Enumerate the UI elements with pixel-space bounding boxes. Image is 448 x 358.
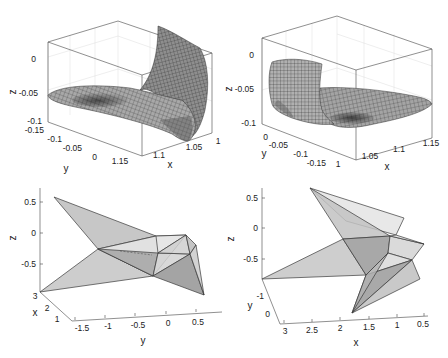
z-axis: 0 -0.05 -0.1 z	[224, 50, 256, 128]
z-tick: 0	[31, 54, 36, 64]
y-tick: -1	[104, 321, 112, 331]
panel-bottom-left: 0.5 0 -0.5 z 1 2 3 x -1.5 -1 -0.5 0 0.5 …	[0, 178, 224, 358]
surface-plot-top-right: 0 -0.05 -0.1 z 0 -0.05 -0.1 -0.15 y 1 1.…	[224, 0, 448, 180]
y-tick: -0.1	[47, 134, 62, 144]
x-tick: 3	[33, 291, 38, 301]
x-tick: 1.05	[186, 142, 203, 152]
z-axis-label: z	[7, 90, 18, 95]
x-tick: 3	[283, 326, 288, 336]
x-tick: 1.15	[112, 156, 129, 166]
x-tick: 2.5	[306, 325, 318, 335]
x-tick: 1.5	[363, 322, 375, 332]
y-tick: 0	[92, 152, 97, 162]
z-tick: 0	[249, 50, 254, 60]
z-tick: 0	[253, 223, 258, 233]
y-axis: 0 -0.05 -0.1 -0.15 y	[262, 132, 327, 168]
x-tick: 1.1	[153, 150, 165, 160]
y-tick: -0.5	[131, 320, 146, 330]
y-tick: 0	[263, 132, 268, 142]
x-axis: 1 2 3 x	[33, 291, 60, 324]
x-axis-label: x	[168, 159, 173, 170]
surface-mesh	[269, 59, 432, 127]
polyhedron-plot-bottom-right: 0.5 0 -0.5 z -1 0 y 3 2.5 2 1.5 1 0.5 x	[224, 178, 448, 358]
x-tick: 0.5	[417, 319, 429, 329]
z-tick: -0.5	[21, 259, 36, 269]
x-axis-label: x	[354, 337, 359, 348]
z-tick: -0.5	[243, 254, 258, 264]
z-axis-label: z	[7, 236, 18, 241]
z-tick: 0	[31, 228, 36, 238]
z-tick: -0.05	[235, 84, 255, 94]
y-axis: -1 0 y	[248, 291, 271, 319]
z-tick: 0.5	[24, 197, 36, 207]
x-tick: 1	[216, 136, 221, 146]
x-tick: 2	[338, 323, 343, 333]
z-tick: -0.05	[19, 88, 39, 98]
surface-mesh	[48, 26, 208, 142]
y-tick: -1.5	[75, 323, 90, 333]
y-axis-label: y	[248, 300, 253, 311]
x-tick: 1.05	[362, 151, 379, 161]
x-tick: 1.15	[423, 138, 440, 148]
y-tick: -0.05	[269, 140, 289, 150]
y-axis: -1.5 -1 -0.5 0 0.5 y	[75, 317, 205, 346]
x-tick: 2	[45, 303, 50, 313]
panel-top-left: 0 -0.05 -0.1 z -0.15 -0.1 -0.05 0 y 1.15…	[0, 0, 224, 180]
z-axis-label: z	[225, 237, 236, 242]
y-axis: -0.15 -0.1 -0.05 0 y	[25, 125, 98, 174]
y-tick: 0	[265, 309, 270, 319]
z-axis-label: z	[224, 87, 234, 92]
y-axis-label: y	[64, 163, 69, 174]
z-axis: 0.5 0 -0.5 z	[7, 197, 36, 269]
x-tick: 1	[55, 314, 60, 324]
polyhedron-plot-bottom-left: 0.5 0 -0.5 z 1 2 3 x -1.5 -1 -0.5 0 0.5 …	[0, 178, 224, 358]
y-tick: 0	[166, 318, 171, 328]
x-tick: 1	[336, 159, 341, 169]
y-tick: -1	[256, 291, 264, 301]
z-tick: 0.5	[246, 193, 258, 203]
x-axis-label: x	[33, 307, 38, 318]
y-tick: -0.15	[307, 158, 327, 168]
z-axis: 0.5 0 -0.5 z	[225, 193, 258, 264]
x-tick: 1	[395, 320, 400, 330]
surface-plot-top-left: 0 -0.05 -0.1 z -0.15 -0.1 -0.05 0 y 1.15…	[0, 0, 224, 180]
y-axis-label: y	[141, 335, 146, 346]
z-tick: -0.1	[241, 118, 256, 128]
panel-top-right: 0 -0.05 -0.1 z 0 -0.05 -0.1 -0.15 y 1 1.…	[224, 0, 448, 180]
polyhedron-faces	[40, 197, 204, 295]
x-axis-label: x	[385, 161, 390, 172]
x-tick: 1.1	[393, 144, 405, 154]
y-axis-label: y	[262, 148, 267, 159]
x-axis: 3 2.5 2 1.5 1 0.5 x	[283, 319, 430, 348]
y-tick: 0.5	[192, 317, 204, 327]
panel-bottom-right: 0.5 0 -0.5 z -1 0 y 3 2.5 2 1.5 1 0.5 x	[224, 178, 448, 358]
z-axis: 0 -0.05 -0.1 z	[7, 54, 42, 126]
y-tick: -0.05	[63, 143, 83, 153]
y-tick: -0.15	[25, 125, 45, 135]
x-axis: 1.15 1.1 1.05 1 x	[112, 136, 221, 170]
polyhedron-faces	[262, 188, 424, 313]
x-axis: 1 1.05 1.1 1.15 x	[336, 138, 440, 172]
